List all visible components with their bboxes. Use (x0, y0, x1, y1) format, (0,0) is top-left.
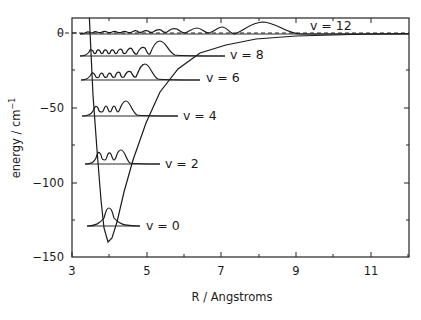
level-v8 (80, 41, 225, 56)
level-v2 (85, 150, 160, 164)
level-v4 (82, 101, 178, 116)
x-axis-title: R / Angstroms (192, 290, 273, 304)
y-tick-m100: −100 (32, 176, 64, 190)
x-tick-labels: 3 5 7 9 11 (68, 264, 378, 278)
level-v0 (87, 208, 140, 226)
level-v12 (80, 22, 409, 34)
x-tick-11: 11 (364, 264, 379, 278)
y-axis-title-sup: −1 (8, 98, 17, 110)
label-v8: v = 8 (230, 47, 264, 62)
y-axis-title: energy / cm−1 (8, 98, 23, 179)
label-v2: v = 2 (165, 156, 199, 171)
x-tick-9: 9 (292, 264, 299, 278)
label-v6: v = 6 (206, 70, 240, 85)
y-tick-labels: 0 −50 −100 −150 (32, 26, 64, 264)
label-v0: v = 0 (146, 218, 180, 233)
label-v4: v = 4 (183, 108, 217, 123)
svg-text:energy / cm−1: energy / cm−1 (8, 98, 23, 179)
vibrational-levels-chart: 3 5 7 9 11 0 −50 −100 −150 R / Angstroms… (0, 0, 421, 320)
y-axis-title-main: energy / cm (9, 110, 23, 179)
potential-curve (89, 10, 409, 242)
x-tick-3: 3 (68, 264, 75, 278)
y-tick-m150: −150 (32, 250, 64, 264)
label-v12: v = 12 (310, 18, 352, 33)
y-tick-m50: −50 (40, 101, 64, 115)
x-tick-5: 5 (143, 264, 150, 278)
x-tick-7: 7 (217, 264, 224, 278)
